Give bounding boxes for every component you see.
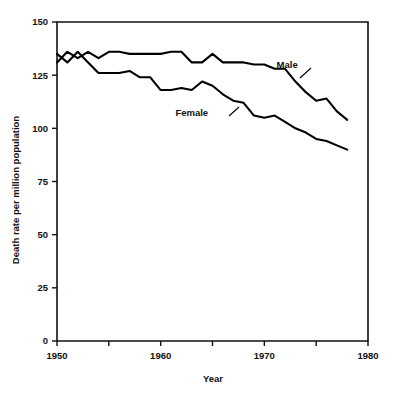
x-axis-title: Year xyxy=(203,373,223,384)
y-tick-label: 75 xyxy=(37,176,48,187)
data-series-group xyxy=(57,52,347,150)
chart-figure: 0255075100125150 1950196019701980 MaleFe… xyxy=(0,0,400,394)
y-tick-label: 100 xyxy=(32,123,48,134)
y-tick-label: 125 xyxy=(32,70,49,81)
series-label-male: Male xyxy=(277,59,298,70)
series-line-female xyxy=(57,52,347,150)
leader-line-male xyxy=(300,68,311,78)
axis-frame xyxy=(57,22,368,341)
x-axis-tick-labels: 1950196019701980 xyxy=(46,350,378,361)
leader-line-female xyxy=(229,107,239,116)
x-tick-label: 1970 xyxy=(254,350,275,361)
plot-frame xyxy=(57,22,368,341)
y-tick-label: 50 xyxy=(37,229,48,240)
y-tick-label: 25 xyxy=(37,282,48,293)
y-tick-label: 150 xyxy=(32,16,48,27)
x-tick-label: 1980 xyxy=(357,350,378,361)
line-chart: 0255075100125150 1950196019701980 MaleFe… xyxy=(0,0,400,394)
series-label-female: Female xyxy=(175,107,208,118)
y-tick-label: 0 xyxy=(43,335,48,346)
y-axis-title: Death rate per million population xyxy=(10,116,21,265)
y-axis-tick-labels: 0255075100125150 xyxy=(32,16,49,346)
x-tick-label: 1950 xyxy=(46,350,67,361)
x-tick-label: 1960 xyxy=(150,350,171,361)
